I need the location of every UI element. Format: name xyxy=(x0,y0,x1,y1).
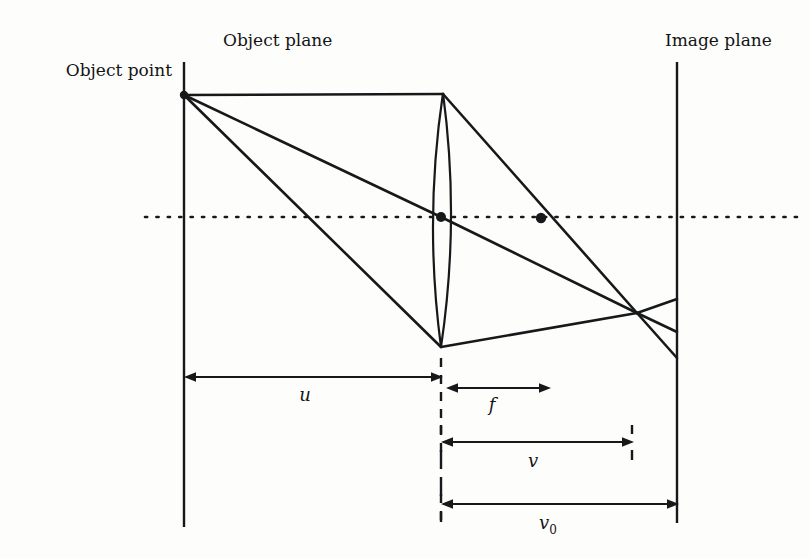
ray-lower-incident xyxy=(184,95,441,347)
dimension-u: u xyxy=(184,372,443,405)
dimension-f-arrowhead-left xyxy=(446,383,458,393)
dimension-u-arrowhead-left xyxy=(184,372,196,382)
object-plane-label: Object plane xyxy=(223,30,332,50)
lens-ray-diagram: u f v v0 xyxy=(0,0,809,558)
dimension-u-label: u xyxy=(299,384,311,405)
ray-upper-incident xyxy=(184,94,443,95)
dimension-v0-label-subscript: 0 xyxy=(549,523,557,537)
object-point-label: Object point xyxy=(66,60,172,80)
dimension-v0-label: v0 xyxy=(539,512,557,537)
focal-point-dot xyxy=(536,213,546,223)
ray-central-refracted xyxy=(441,217,637,313)
image-plane-label: Image plane xyxy=(665,30,772,50)
dimension-f: f xyxy=(446,383,551,415)
dimension-v-arrowhead-right xyxy=(622,437,634,447)
dimension-v0-arrowhead-left xyxy=(441,499,453,509)
ray-lower-refracted xyxy=(441,313,637,347)
figure-root: u f v v0 xyxy=(0,0,809,558)
ray-central-incident xyxy=(184,95,441,217)
ray-upper-beyond-focus xyxy=(637,313,677,358)
dimension-v-label: v xyxy=(528,450,538,471)
ray-central-beyond-focus xyxy=(637,313,677,332)
ray-upper-refracted xyxy=(443,94,637,313)
dimension-v-arrowhead-left xyxy=(441,437,453,447)
dimension-v0: v0 xyxy=(441,486,679,537)
dimension-f-arrowhead-right xyxy=(539,383,551,393)
ray-lower-beyond-focus xyxy=(637,299,677,313)
object-point-dot xyxy=(180,91,188,99)
dimension-v0-label-base: v xyxy=(539,512,549,533)
dimension-f-label: f xyxy=(487,394,499,415)
dimension-v: v xyxy=(441,425,634,471)
lens-center-dot xyxy=(436,212,446,222)
